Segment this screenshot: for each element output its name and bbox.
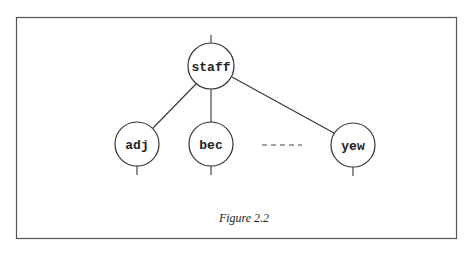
figure: staff adj bec yew Figure 2.2 bbox=[0, 0, 476, 256]
edge-staff-yew bbox=[232, 77, 334, 133]
tree-node-staff: staff bbox=[188, 43, 234, 89]
figure-caption: Figure 2.2 bbox=[218, 211, 269, 225]
node-label: adj bbox=[125, 138, 148, 153]
node-label: staff bbox=[191, 60, 230, 75]
node-label: yew bbox=[341, 139, 365, 154]
tree-node-adj: adj bbox=[115, 122, 159, 175]
tree-node-yew: yew bbox=[331, 123, 375, 176]
node-label: bec bbox=[199, 138, 223, 153]
figure-frame bbox=[17, 18, 457, 239]
edge-staff-adj bbox=[153, 84, 196, 128]
tree-node-bec: bec bbox=[189, 122, 233, 175]
